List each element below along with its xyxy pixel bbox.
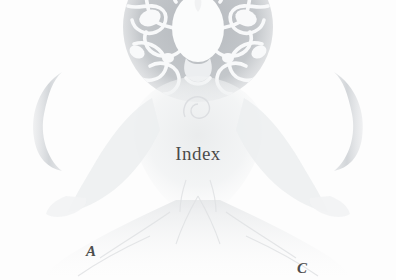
meditating-figure-artwork — [0, 0, 396, 280]
page-marker-c: C — [297, 260, 307, 276]
page-canvas: Index A C — [0, 0, 396, 280]
index-label: Index — [0, 143, 396, 165]
page-marker-a: A — [86, 243, 96, 259]
